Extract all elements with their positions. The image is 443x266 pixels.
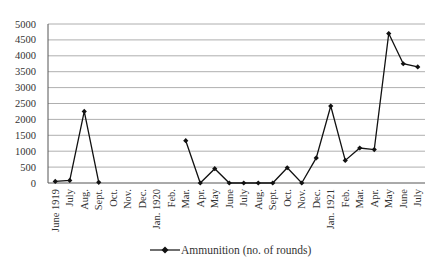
x-tick-label: Mar. [354,189,365,209]
data-point-marker [241,180,246,185]
data-point-marker [386,31,391,36]
line-chart: 0500100015002000250030003500400045005000… [0,0,443,240]
x-tick-label: Oct. [282,189,293,207]
x-tick-label: June [398,189,409,209]
y-tick-label: 4500 [15,34,36,45]
data-point-marker [82,109,87,114]
y-tick-label: 5000 [15,19,36,30]
gridlines [48,24,425,167]
x-tick-label: July [238,188,249,206]
data-point-marker [96,180,101,185]
x-tick-label: June [224,189,235,209]
data-point-marker [415,64,420,69]
x-tick-label: Jan. 1921 [325,189,336,229]
y-tick-label: 0 [31,178,36,189]
y-tick-label: 2500 [15,98,36,109]
y-tick-label: 2000 [15,114,36,125]
data-point-marker [314,155,319,160]
x-tick-label: May [383,188,394,208]
legend: Ammunition (no. of rounds) [150,244,311,256]
y-tick-label: 500 [20,162,36,173]
x-tick-label: Dec. [137,189,148,209]
y-tick-label: 4000 [15,50,36,61]
x-tick-label: Sept. [93,189,104,210]
y-tick-label: 3500 [15,66,36,77]
y-axis-ticks: 0500100015002000250030003500400045005000 [15,19,36,189]
data-point-marker [67,178,72,183]
x-tick-label: Apr. [369,189,380,207]
x-tick-label: Oct. [108,189,119,207]
x-tick-label: Apr. [195,189,206,207]
legend-label: Ammunition (no. of rounds) [181,244,311,256]
y-tick-label: 1000 [15,146,36,157]
data-point-marker [183,138,188,143]
x-tick-label: Sept. [267,189,278,210]
x-tick-label: Mar. [180,189,191,209]
x-tick-label: Dec. [311,189,322,209]
x-tick-label: Nov. [122,189,133,209]
x-tick-label: Aug. [79,189,90,210]
x-tick-label: Feb. [166,189,177,207]
series-ammunition [53,31,421,186]
data-point-marker [328,103,333,108]
x-tick-label: Nov. [296,189,307,209]
x-tick-label: Feb. [340,189,351,207]
x-tick-label: Jan. 1920 [151,189,162,229]
data-point-marker [256,180,261,185]
data-point-marker [401,61,406,66]
x-axis-ticks: June 1919JulyAug.Sept.Oct.Nov.Dec.Jan. 1… [50,188,424,232]
series-line [55,111,99,182]
x-tick-label: July [64,188,75,206]
legend-line-diamond-icon [150,245,180,255]
y-tick-label: 1500 [15,130,36,141]
y-tick-label: 3000 [15,82,36,93]
x-tick-label: Aug. [253,189,264,210]
x-tick-label: July [412,188,423,206]
x-tick-label: May [209,188,220,208]
x-tick-label: June 1919 [50,189,61,232]
